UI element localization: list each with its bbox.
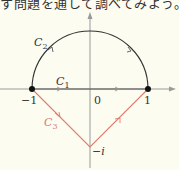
- tick-label-neg-i: −i: [92, 145, 105, 158]
- label-c1: C1: [56, 75, 70, 90]
- point-one: [145, 86, 151, 92]
- point-neg-one: [29, 86, 35, 92]
- label-c2: C2: [34, 36, 48, 51]
- label-c3: C3: [44, 116, 58, 131]
- tick-label-neg-one: −1: [21, 94, 37, 107]
- contour-diagram: C2 C1 C3 −1 0 1 −i: [0, 0, 179, 170]
- tick-label-one: 1: [144, 94, 151, 107]
- tick-label-zero: 0: [94, 94, 101, 107]
